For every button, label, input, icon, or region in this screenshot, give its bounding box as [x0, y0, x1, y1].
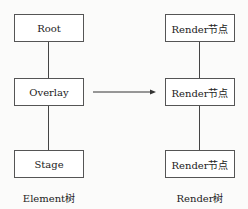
- connector-render-2-3: [199, 106, 200, 150]
- render-tree-caption: Render树: [160, 190, 240, 205]
- connector-render-1-2: [199, 42, 200, 78]
- render-node-3: Render节点: [165, 150, 235, 178]
- render-node-2: Render节点: [165, 78, 235, 106]
- render-node-1: Render节点: [165, 14, 235, 42]
